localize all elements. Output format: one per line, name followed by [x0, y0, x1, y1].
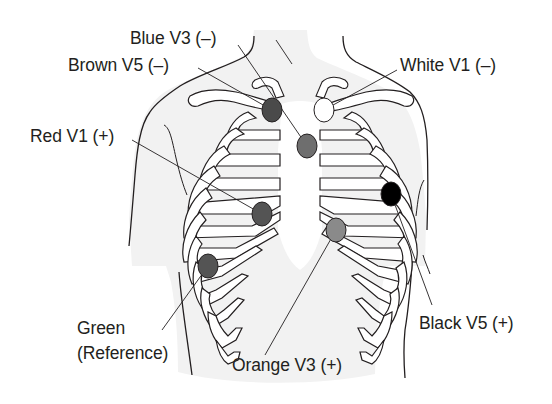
label-orange-v3: Orange V3 (+) — [232, 355, 342, 375]
electrode-blue-v3-neg[interactable] — [297, 134, 317, 158]
sternum — [278, 101, 322, 270]
label-green-line2: (Reference) — [77, 343, 168, 363]
label-red-v1: Red V1 (+) — [30, 126, 114, 146]
electrode-black-v5-pos[interactable] — [381, 182, 401, 206]
label-green-line1: Green — [77, 318, 125, 338]
electrode-brown-v5-neg[interactable] — [262, 98, 282, 122]
label-brown-v5: Brown V5 (–) — [68, 55, 169, 75]
label-white-v1: White V1 (–) — [400, 55, 496, 75]
electrode-red-v1-pos[interactable] — [252, 202, 272, 226]
electrode-green-reference[interactable] — [198, 254, 218, 278]
label-blue-v3: Blue V3 (–) — [130, 28, 216, 48]
electrode-white-v1-neg[interactable] — [314, 98, 334, 122]
label-black-v5: Black V5 (+) — [419, 313, 514, 333]
electrode-orange-v3-pos[interactable] — [326, 218, 346, 242]
